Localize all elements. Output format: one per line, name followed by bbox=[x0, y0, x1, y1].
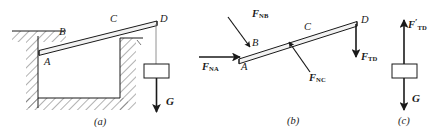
point-label-b-panel-b: B bbox=[252, 38, 258, 49]
statics-figure: B C D A G (a) FNB FNA FNC FTD B A C D (b… bbox=[0, 0, 428, 135]
force-label-fnb-base: F bbox=[252, 8, 259, 19]
panel-caption-b: (b) bbox=[287, 116, 299, 127]
weight-label-g-panel-a: G bbox=[166, 96, 174, 107]
weight-block-panel-a bbox=[144, 64, 169, 78]
force-label-fnc: FNC bbox=[309, 73, 326, 84]
panel-a-graphics bbox=[12, 21, 169, 112]
panel-caption-c: (c) bbox=[398, 116, 410, 127]
force-arrow-fnb bbox=[228, 17, 250, 47]
point-label-c-panel-b: C bbox=[304, 22, 311, 33]
point-label-c-panel-a: C bbox=[110, 14, 117, 25]
point-label-a-panel-b: A bbox=[241, 62, 247, 73]
ground-hatch-left bbox=[12, 31, 66, 42]
force-label-fna-base: F bbox=[202, 61, 209, 72]
force-label-fnb: FNB bbox=[252, 9, 268, 20]
force-label-ftd-prime-base: F bbox=[408, 19, 415, 30]
point-label-d-panel-a: D bbox=[160, 14, 168, 25]
point-label-d-panel-b: D bbox=[361, 15, 369, 26]
point-label-b-panel-a: B bbox=[59, 27, 65, 38]
point-label-a-panel-a: A bbox=[44, 57, 50, 68]
ground-hatch-right-wall bbox=[120, 38, 143, 110]
force-label-fna: FNA bbox=[202, 62, 219, 73]
panel-b-graphics bbox=[199, 17, 357, 72]
panel-caption-a: (a) bbox=[94, 117, 106, 128]
force-label-ftd-prime-panel-c: F′TD bbox=[408, 18, 427, 31]
force-label-ftd-sub: TD bbox=[368, 55, 377, 62]
force-arrow-fnc bbox=[289, 42, 310, 72]
force-label-fna-sub: NA bbox=[209, 65, 219, 72]
force-label-fnc-sub: NC bbox=[316, 76, 326, 83]
weight-block-panel-c bbox=[392, 64, 417, 78]
force-label-ftd-base: F bbox=[361, 51, 368, 62]
force-label-ftd-prime-sub: TD bbox=[418, 24, 427, 31]
force-label-fnc-base: F bbox=[309, 72, 316, 83]
weight-label-g-panel-c: G bbox=[412, 93, 420, 104]
force-label-ftd-panel-b: FTD bbox=[361, 52, 377, 63]
ledge-tick bbox=[137, 40, 141, 45]
ground-hatch-left-wall bbox=[26, 36, 38, 108]
ground-hatch-floor bbox=[26, 98, 128, 110]
force-label-fnb-sub: NB bbox=[259, 12, 268, 19]
